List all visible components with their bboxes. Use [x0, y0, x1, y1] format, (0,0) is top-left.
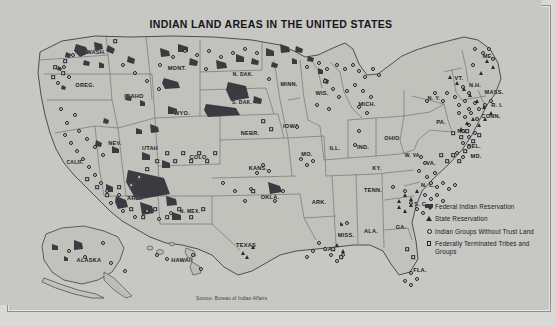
indian-group-marker — [327, 107, 331, 111]
state-label-ill: ILL. — [330, 145, 341, 151]
indian-group-marker — [233, 189, 237, 193]
terminated-tribe-marker — [331, 247, 335, 251]
state-label-tenn: TENN. — [364, 187, 382, 193]
indian-group-marker — [343, 67, 347, 71]
indian-group-marker — [67, 249, 71, 253]
indian-group-marker — [204, 67, 208, 71]
indian-group-marker — [71, 53, 75, 57]
indian-group-marker — [463, 99, 467, 103]
indian-group-marker — [133, 215, 137, 219]
terminated-tribe-marker — [155, 159, 159, 163]
indian-group-marker — [191, 253, 195, 257]
map-title: INDIAN LAND AREAS IN THE UNITED STATES — [0, 18, 542, 30]
indian-group-marker — [121, 209, 125, 213]
indian-group-marker — [157, 217, 161, 221]
indian-group-marker — [357, 129, 361, 133]
terminated-tribe-marker — [105, 193, 109, 197]
terminated-tribe-marker — [477, 133, 481, 137]
state-label-idaho: IDAHO — [124, 93, 143, 99]
state-label-miss: MISS. — [338, 232, 354, 238]
state-reservation-marker — [335, 243, 339, 247]
terminated-tribe-marker — [137, 175, 141, 179]
indian-group-marker — [441, 99, 445, 103]
indian-group-marker — [255, 51, 259, 55]
indian-group-marker — [335, 63, 339, 67]
state-label-ky: KY. — [372, 165, 381, 171]
terminated-tribe-marker — [459, 135, 463, 139]
terminated-tribe-marker — [189, 159, 193, 163]
indian-group-marker — [335, 259, 339, 263]
indian-group-marker — [433, 171, 437, 175]
indian-group-marker — [363, 75, 367, 79]
indian-group-marker — [69, 141, 73, 145]
indian-group-marker — [59, 107, 63, 111]
indian-group-marker — [365, 111, 369, 115]
state-label-alaska: ALASKA — [77, 257, 102, 263]
state-reservation-marker — [455, 81, 459, 85]
indian-group-marker — [281, 189, 285, 193]
indian-group-marker — [453, 183, 457, 187]
indian-group-marker — [429, 181, 433, 185]
indian-group-marker — [81, 157, 85, 161]
state-reservation-marker — [489, 111, 493, 115]
state-label-wyo: WYO. — [174, 110, 190, 116]
indian-group-marker — [207, 49, 211, 53]
indian-group-marker — [369, 95, 373, 99]
indian-group-marker — [73, 113, 77, 117]
source-attribution: Source: Bureau of Indian Affairs — [196, 296, 267, 301]
indian-group-marker — [435, 185, 439, 189]
terminated-tribe-marker — [457, 159, 461, 163]
terminated-tribe-marker — [451, 131, 455, 135]
indian-group-marker — [305, 163, 309, 167]
state-label-nebr: NEBR. — [241, 130, 260, 136]
indian-group-marker — [83, 255, 87, 259]
indian-group-marker — [101, 153, 105, 157]
indian-group-marker — [109, 201, 113, 205]
indian-group-marker — [199, 267, 203, 271]
terminated-tribe-marker — [61, 71, 65, 75]
terminated-tribes-square-icon — [423, 240, 435, 246]
indian-group-marker — [243, 199, 247, 203]
indian-group-marker — [311, 249, 315, 253]
indian-group-marker — [99, 181, 103, 185]
indian-group-marker — [425, 99, 429, 103]
indian-group-marker — [158, 63, 162, 67]
indian-group-marker — [441, 181, 445, 185]
legend-item-federal-reservation: Federal Indian Reservation — [423, 203, 535, 210]
indian-group-marker — [56, 81, 60, 85]
state-reservation-marker — [479, 71, 483, 75]
terminated-tribe-marker — [261, 119, 265, 123]
terminated-tribe-marker — [177, 207, 181, 211]
terminated-tribe-marker — [85, 177, 89, 181]
indian-group-marker — [145, 209, 149, 213]
indian-group-marker — [457, 111, 461, 115]
indian-group-marker — [429, 197, 433, 201]
terminated-tribe-marker — [165, 215, 169, 219]
indian-group-marker — [295, 125, 299, 129]
indian-group-marker — [423, 193, 427, 197]
indian-group-marker — [317, 241, 321, 245]
terminated-tribe-marker — [181, 151, 185, 155]
terminated-tribe-marker — [165, 151, 169, 155]
indian-group-marker — [101, 241, 105, 245]
indian-group-marker — [357, 69, 361, 73]
indian-group-marker — [317, 61, 321, 65]
indian-group-marker — [85, 137, 89, 141]
indian-group-marker — [453, 95, 457, 99]
indian-group-marker — [63, 133, 67, 137]
indian-group-marker — [123, 269, 127, 273]
indian-group-marker — [337, 95, 341, 99]
terminated-tribe-marker — [411, 255, 415, 259]
state-label-mass: MASS. — [485, 89, 504, 95]
indian-group-marker — [299, 157, 303, 161]
indian-group-marker — [353, 143, 357, 147]
map-legend: Federal Indian Reservation State Reserva… — [423, 203, 535, 260]
state-reservation-marker — [482, 105, 486, 109]
state-label-utah: UTAH — [142, 145, 158, 151]
indian-group-marker — [417, 169, 421, 173]
indian-group-marker — [67, 75, 71, 79]
indian-group-marker — [435, 193, 439, 197]
state-reservation-marker — [491, 65, 495, 69]
indian-group-marker — [457, 103, 461, 107]
indian-group-marker — [403, 279, 407, 283]
